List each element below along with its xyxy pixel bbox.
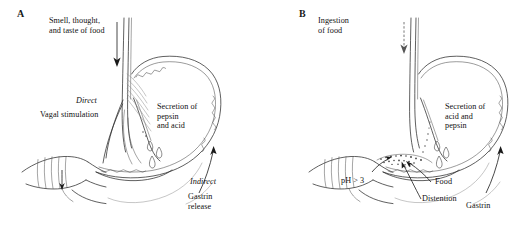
distention-label-b: Distention [422, 194, 457, 204]
panel-a-illustration [0, 0, 260, 239]
ph-label-b: pH > 3 [341, 176, 364, 186]
food-label-b: Food [435, 177, 452, 187]
ingestion-arrow-b [400, 22, 407, 54]
panel-a-cephalic-phase: A [0, 0, 260, 239]
vagus-nerve-fibers-a [103, 74, 151, 164]
panel-b-gastric-phase: B [259, 0, 519, 239]
ingestion-label-b: Ingestion of food [318, 16, 349, 35]
gastrin-arrow-b [473, 146, 504, 204]
food-bolus-b [377, 121, 432, 166]
direct-pathway-label-a: Direct [76, 96, 97, 106]
gastrin-label-b: Gastrin [466, 201, 490, 211]
vagal-stimulation-label-a: Vagal stimulation [40, 110, 98, 120]
esophagus-b [410, 18, 420, 152]
secretion-label-b: Secretion of acid and pepsin [445, 102, 485, 131]
secretion-label-a: Secretion of pepsin and acid [157, 102, 197, 131]
stimulus-label-a: Smell, thought, and taste of food [49, 16, 105, 35]
duodenum-a [22, 156, 106, 203]
stimulus-arrow-a [113, 22, 120, 67]
indirect-pathway-label-a: Indirect [190, 177, 216, 187]
secretion-droplets-a [142, 131, 162, 168]
gastrin-release-label-a: Gastrin release [188, 192, 212, 211]
gastric-secretion-figure: A [0, 0, 519, 239]
